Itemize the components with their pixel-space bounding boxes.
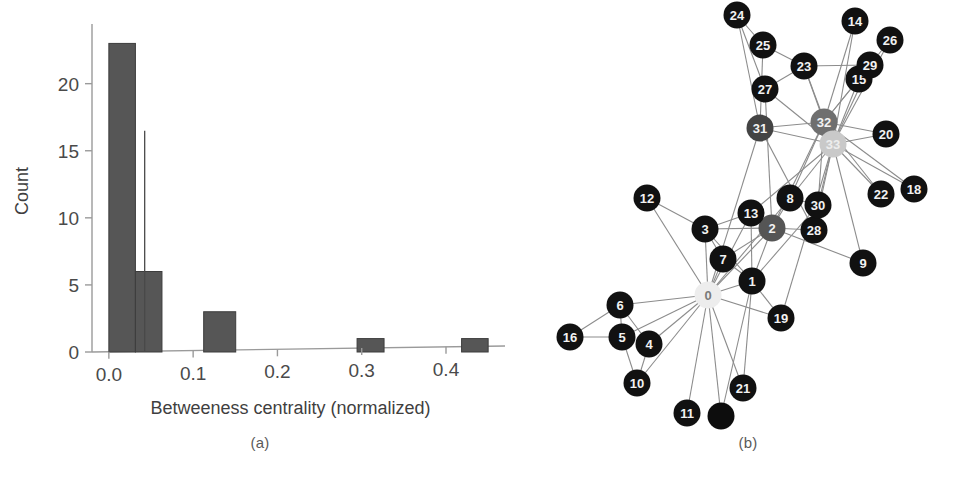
y-tick-label: 20: [58, 74, 79, 95]
node-label: 27: [758, 82, 772, 97]
histogram-bar: [135, 272, 162, 353]
node-label: 22: [874, 187, 888, 202]
graph-node[interactable]: [708, 403, 735, 430]
node-label: 32: [817, 115, 831, 130]
graph-node[interactable]: 22: [868, 181, 895, 208]
node-label: 19: [774, 311, 788, 326]
node-label: 5: [618, 330, 625, 345]
graph-node[interactable]: 9: [850, 250, 877, 277]
x-tick-label: 0.2: [264, 361, 290, 382]
y-tick-label: 15: [58, 141, 79, 162]
y-tick-label: 0: [68, 342, 79, 363]
graph-edge: [737, 15, 760, 128]
node-label: 3: [701, 222, 708, 237]
node-label: 14: [848, 14, 863, 29]
node-label: 10: [630, 376, 644, 391]
graph-edge: [765, 89, 772, 228]
graph-node[interactable]: 20: [873, 121, 900, 148]
graph-node[interactable]: 18: [901, 176, 928, 203]
graph-node[interactable]: 4: [636, 331, 663, 358]
node-label: 1: [748, 274, 755, 289]
graph-node[interactable]: 19: [768, 305, 795, 332]
graph-node[interactable]: 23: [791, 53, 818, 80]
histogram-plot: 051015200.00.10.20.30.4Betweeness centra…: [0, 0, 520, 430]
graph-edge: [687, 295, 708, 413]
x-tick-label: 0.1: [180, 363, 206, 384]
node-label: 25: [756, 38, 770, 53]
graph-node[interactable]: 6: [607, 292, 634, 319]
node-label: 21: [736, 381, 750, 396]
graph-node[interactable]: 12: [634, 185, 661, 212]
y-axis-ticks: 05101520: [58, 74, 92, 363]
node-label: 2: [768, 221, 775, 236]
panel-a-histogram: 051015200.00.10.20.30.4Betweeness centra…: [0, 0, 520, 483]
histogram-bar: [462, 339, 489, 352]
node-label: 12: [640, 191, 654, 206]
node-label: 9: [859, 256, 866, 271]
graph-edge: [743, 281, 752, 388]
x-axis-ticks: 0.00.10.20.30.4: [96, 347, 460, 385]
node-label: 30: [811, 198, 825, 213]
graph-node[interactable]: 14: [842, 8, 869, 35]
node-label: 26: [883, 33, 897, 48]
histogram-bar: [204, 312, 236, 352]
node-label: 28: [807, 223, 821, 238]
node-label: 0: [704, 288, 711, 303]
graph-node[interactable]: 28: [801, 217, 828, 244]
graph-node[interactable]: 30: [805, 192, 832, 219]
node-label: 6: [616, 298, 623, 313]
graph-node[interactable]: 24: [724, 2, 751, 29]
node-label: 24: [730, 8, 745, 23]
graph-node[interactable]: 27: [752, 76, 779, 103]
graph-node[interactable]: 0: [695, 282, 722, 309]
panel-a-caption: (a): [0, 434, 520, 451]
x-tick-label: 0.4: [433, 359, 460, 380]
node-label: 20: [879, 127, 893, 142]
x-axis-title: Betweeness centrality (normalized): [150, 398, 430, 418]
graph-edge: [760, 128, 814, 230]
graph-node[interactable]: 26: [877, 27, 904, 54]
node-label: 13: [744, 206, 758, 221]
graph-edge: [833, 144, 914, 189]
graph-node[interactable]: 5: [609, 324, 636, 351]
graph-node[interactable]: 33: [820, 131, 847, 158]
panel-b-network: 0123456789101112131415161819202122232425…: [520, 0, 976, 483]
graph-node[interactable]: 31: [747, 115, 774, 142]
graph-node[interactable]: 21: [730, 375, 757, 402]
y-tick-label: 5: [68, 275, 79, 296]
y-tick-label: 10: [58, 208, 79, 229]
graph-node[interactable]: 16: [557, 324, 584, 351]
nodes-group: 0123456789101112131415161819202122232425…: [557, 2, 928, 430]
node-label: 16: [563, 330, 577, 345]
graph-node[interactable]: 25: [750, 32, 777, 59]
y-axis-title: Count: [12, 167, 32, 215]
graph-node[interactable]: 29: [857, 52, 884, 79]
node-label: 11: [680, 406, 694, 421]
graph-node[interactable]: 11: [674, 400, 701, 427]
panel-b-caption: (b): [520, 434, 976, 451]
node-label: 29: [863, 58, 877, 73]
graph-edge: [833, 144, 863, 263]
node-label: 4: [645, 337, 653, 352]
histogram-bar: [109, 43, 136, 352]
x-tick-label: 0.3: [349, 360, 375, 381]
node-label: 33: [826, 137, 840, 152]
graph-edge: [647, 198, 708, 295]
node-label: 8: [786, 191, 793, 206]
node-circle[interactable]: [708, 403, 735, 430]
network-graph: 0123456789101112131415161819202122232425…: [520, 0, 976, 440]
x-tick-label: 0.0: [96, 364, 122, 385]
graph-node[interactable]: 10: [624, 370, 651, 397]
node-label: 18: [907, 182, 921, 197]
graph-node[interactable]: 13: [738, 200, 765, 227]
graph-node[interactable]: 3: [692, 216, 719, 243]
node-label: 23: [797, 59, 811, 74]
node-label: 7: [719, 252, 726, 267]
bars-group: [109, 43, 488, 352]
graph-node[interactable]: 7: [710, 246, 737, 273]
node-label: 31: [753, 121, 767, 136]
graph-node[interactable]: 1: [739, 268, 766, 295]
graph-node[interactable]: 8: [777, 185, 804, 212]
